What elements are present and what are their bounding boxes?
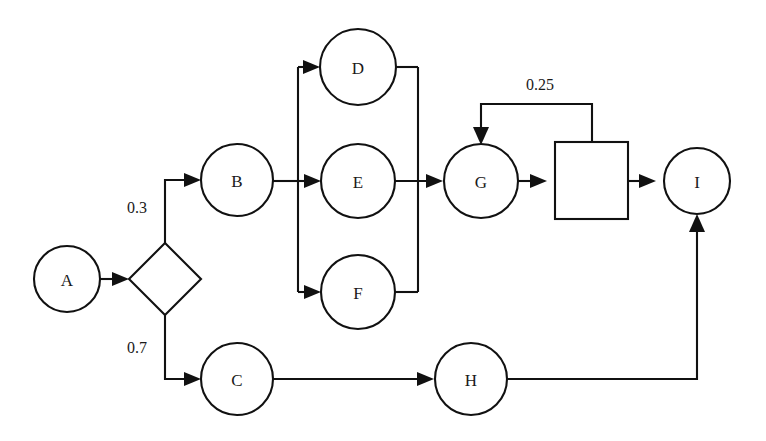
arrowhead-split-to-d bbox=[303, 60, 320, 74]
arrowhead-decision-to-b bbox=[184, 173, 201, 187]
arrowhead-split-to-e bbox=[304, 174, 321, 188]
node-i-label: I bbox=[694, 173, 700, 192]
edge-label-probability-025: 0.25 bbox=[526, 76, 554, 93]
node-box-shape[interactable] bbox=[555, 142, 628, 219]
arrowhead-g-to-box bbox=[530, 174, 547, 188]
node-decision-shape[interactable] bbox=[129, 243, 201, 315]
edge-g-to-box bbox=[518, 174, 547, 188]
edge-split-to-d bbox=[298, 60, 320, 74]
node-h[interactable]: H bbox=[435, 343, 507, 415]
edge-line-box-feedback-to-g bbox=[481, 104, 592, 142]
edge-split-to-e bbox=[298, 174, 321, 188]
edge-box-feedback-to-g bbox=[473, 104, 592, 145]
node-f-label: F bbox=[353, 284, 362, 303]
node-f[interactable]: F bbox=[321, 255, 395, 329]
arrowhead-decision-to-c bbox=[184, 372, 201, 386]
node-g[interactable]: G bbox=[444, 144, 518, 218]
edge-line-decision-to-c bbox=[165, 315, 192, 379]
node-b-label: B bbox=[231, 172, 242, 191]
edge-box-to-i bbox=[628, 174, 656, 188]
node-c[interactable]: C bbox=[201, 343, 273, 415]
arrowhead-h-to-i bbox=[689, 214, 705, 232]
node-h-label: H bbox=[465, 371, 477, 390]
flow-diagram: A B C D E F bbox=[0, 0, 766, 441]
arrowhead-split-to-f bbox=[304, 285, 321, 299]
node-c-label: C bbox=[231, 371, 242, 390]
arrowhead-a-to-decision bbox=[112, 272, 129, 286]
edge-label-probability-03: 0.3 bbox=[127, 199, 147, 216]
node-box[interactable] bbox=[555, 142, 628, 219]
arrowhead-box-to-i bbox=[639, 174, 656, 188]
edge-h-to-i bbox=[507, 214, 705, 379]
diagram-canvas: A B C D E F bbox=[0, 0, 766, 441]
arrowhead-c-to-h bbox=[417, 372, 434, 386]
arrowhead-join-to-g bbox=[426, 174, 443, 188]
node-decision-diamond[interactable] bbox=[129, 243, 201, 315]
edge-line-h-to-i bbox=[507, 231, 697, 379]
edge-decision-to-c bbox=[165, 315, 201, 386]
node-a[interactable]: A bbox=[34, 246, 100, 312]
edge-decision-to-b bbox=[165, 173, 201, 243]
edge-line-decision-to-b bbox=[165, 180, 192, 243]
node-d[interactable]: D bbox=[320, 29, 396, 105]
edge-c-to-h bbox=[273, 372, 434, 386]
edge-label-probability-07: 0.7 bbox=[127, 339, 147, 356]
node-a-label: A bbox=[61, 271, 74, 290]
edge-split-to-f bbox=[298, 285, 321, 299]
node-b[interactable]: B bbox=[201, 144, 273, 216]
arrowhead-feedback-to-g bbox=[473, 127, 489, 145]
node-d-label: D bbox=[352, 59, 364, 78]
edge-a-to-decision bbox=[100, 272, 129, 286]
node-e[interactable]: E bbox=[321, 144, 395, 218]
node-e-label: E bbox=[353, 173, 363, 192]
node-g-label: G bbox=[475, 173, 487, 192]
node-i[interactable]: I bbox=[664, 148, 730, 214]
